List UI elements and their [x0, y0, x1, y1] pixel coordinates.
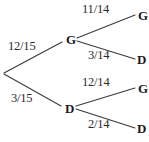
leaf-node-gd: D — [137, 53, 146, 66]
node-level1-d: D — [65, 102, 74, 115]
leaf-node-dg: G — [138, 82, 148, 95]
branch-d-to-g — [76, 88, 135, 106]
edge-label-g-to-d: 3/14 — [88, 49, 109, 62]
edge-label-root-to-g: 12/15 — [8, 40, 35, 53]
leaf-node-gg: G — [138, 9, 148, 22]
edge-label-d-to-g: 12/14 — [82, 76, 109, 89]
leaf-node-dd: D — [137, 122, 146, 135]
probability-tree-diagram: G D 12/15 3/15 G 11/14 D 3/14 G 12/14 D … — [0, 0, 149, 142]
tree-branch-lines — [0, 0, 149, 142]
branch-g-to-g — [77, 15, 135, 38]
edge-label-d-to-d: 2/14 — [88, 118, 109, 131]
edge-label-root-to-d: 3/15 — [11, 92, 32, 105]
node-level1-g: G — [66, 33, 76, 46]
edge-label-g-to-g: 11/14 — [82, 3, 109, 16]
